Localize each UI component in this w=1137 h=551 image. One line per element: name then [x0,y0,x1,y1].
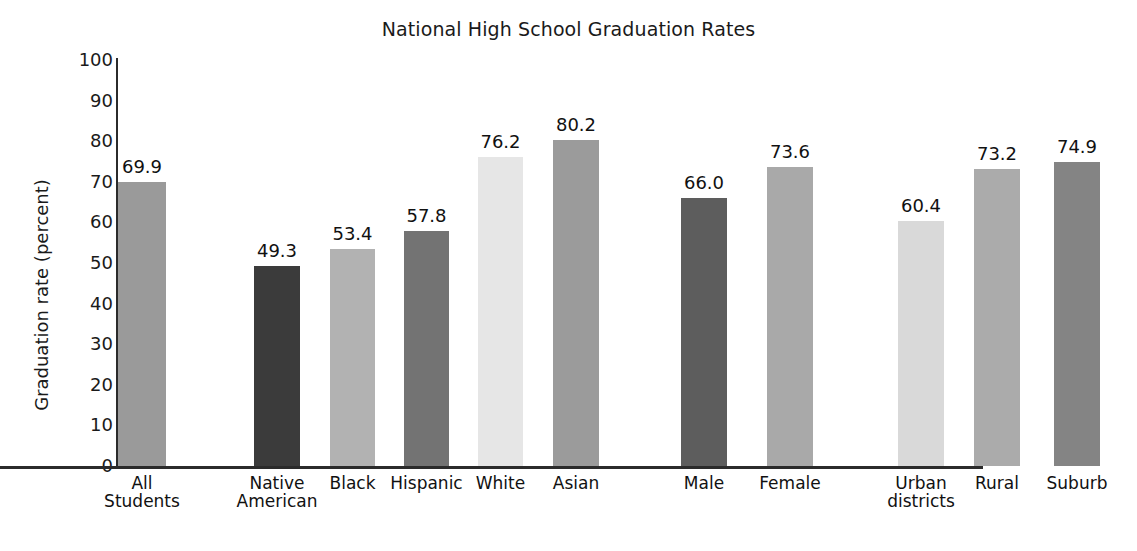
chart-canvas: National High School Graduation Rates Gr… [0,0,1137,551]
y-tick-20: 20 [53,376,113,394]
bar-value-label-5: 76.2 [466,133,536,151]
bar-value-label-1: 69.9 [107,158,177,176]
bar-4[interactable] [404,231,449,466]
bar-1[interactable] [118,182,166,466]
bar-value-label-7: 66.0 [669,174,739,192]
bar-value-label-6: 80.2 [541,116,611,134]
bar-value-label-4: 57.8 [392,207,462,225]
y-tick-10: 10 [53,416,113,434]
category-label-1: All Students [82,474,202,511]
bar-5[interactable] [478,157,523,466]
category-label-11: Suburb [1017,474,1137,492]
bar-11[interactable] [1054,162,1100,466]
bar-7[interactable] [681,198,727,466]
y-tick-80: 80 [53,132,113,150]
bar-value-label-2: 49.3 [242,242,312,260]
y-tick-50: 50 [53,254,113,272]
bar-value-label-9: 60.4 [886,197,956,215]
category-label-8: Female [730,474,850,492]
y-tick-40: 40 [53,295,113,313]
bar-value-label-8: 73.6 [755,143,825,161]
y-tick-60: 60 [53,213,113,231]
bar-6[interactable] [553,140,599,466]
bar-value-label-11: 74.9 [1042,138,1112,156]
bar-10[interactable] [974,169,1020,466]
y-tick-70: 70 [53,173,113,191]
x-axis-baseline [0,466,983,469]
y-tick-90: 90 [53,92,113,110]
bar-2[interactable] [254,266,300,466]
bar-value-label-10: 73.2 [962,145,1032,163]
y-tick-100: 100 [53,51,113,69]
bar-3[interactable] [330,249,375,466]
bar-value-label-3: 53.4 [318,225,388,243]
bar-8[interactable] [767,167,813,466]
category-label-6: Asian [516,474,636,492]
bar-9[interactable] [898,221,944,466]
y-tick-30: 30 [53,335,113,353]
